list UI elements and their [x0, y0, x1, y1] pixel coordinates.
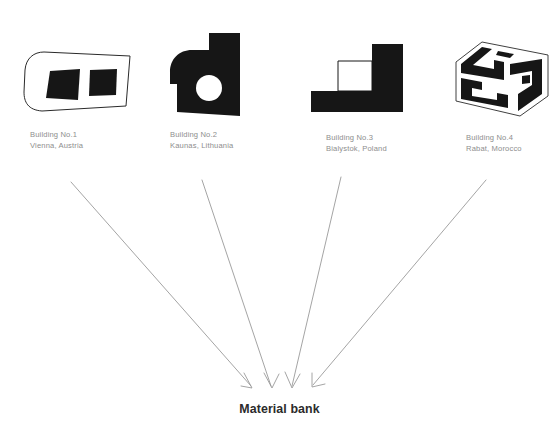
arrow-from-building-2 [202, 180, 279, 388]
material-bank-label: Material bank [0, 402, 559, 416]
arrow-from-building-1 [71, 182, 252, 388]
arrows-layer [0, 0, 559, 425]
diagram-canvas: Building No.1 Vienna, Austria Building N… [0, 0, 559, 425]
arrow-from-building-4 [312, 180, 486, 387]
arrow-from-building-3 [285, 177, 341, 388]
